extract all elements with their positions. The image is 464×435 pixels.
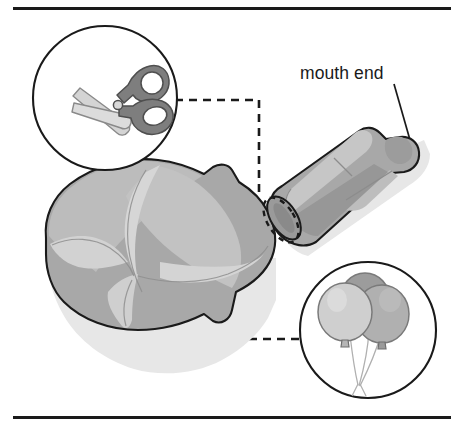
illustration-canvas: mouth end	[0, 0, 464, 435]
bottom-rule	[13, 416, 451, 419]
mouth-end-annotation: mouth end	[300, 63, 410, 140]
scissors-hole-upper	[141, 72, 163, 94]
figure-root: mouth end	[0, 0, 464, 435]
mouth-end-leader-line	[394, 84, 410, 140]
rolled-balloon-tube	[260, 128, 430, 256]
scissors-pivot-icon	[113, 100, 122, 109]
mouth-end-label: mouth end	[300, 63, 384, 83]
top-rule	[13, 7, 451, 10]
deflated-balloon	[46, 159, 276, 373]
callout-scissors[interactable]	[33, 26, 177, 170]
callout-balloons[interactable]	[300, 262, 436, 398]
